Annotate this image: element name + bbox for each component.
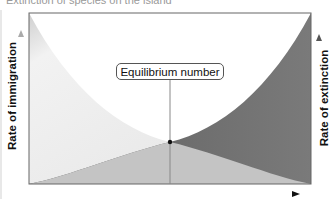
island-biogeography-diagram — [0, 0, 331, 199]
arrow-up-icon — [18, 30, 24, 37]
y-axis-left-label: Rate of immigration — [6, 36, 18, 156]
y-axis-right-label: Rate of extinction — [318, 38, 330, 158]
arrow-right-icon — [292, 191, 300, 197]
equilibrium-point — [168, 140, 172, 144]
equilibrium-label: Equilibrium number — [116, 63, 224, 80]
